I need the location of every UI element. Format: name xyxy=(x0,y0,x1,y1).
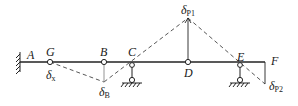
delta-subscript: P1 xyxy=(187,9,195,18)
hinges xyxy=(47,59,242,67)
label-b: B xyxy=(100,46,107,58)
beam-diagram xyxy=(0,0,298,106)
hinge-b xyxy=(101,59,106,64)
label-a: A xyxy=(27,49,34,61)
fixed-support-a xyxy=(16,52,20,74)
hinge-d xyxy=(185,59,190,64)
displacement-lines xyxy=(50,18,265,84)
label-c: C xyxy=(128,46,136,58)
label-e: E xyxy=(237,51,244,63)
delta-x-label: δx xyxy=(46,69,56,83)
hinge-c xyxy=(130,63,135,68)
delta-p2-label: δP2 xyxy=(269,80,283,94)
delta-p1-label: δP1 xyxy=(181,4,195,18)
delta-b-label: δB xyxy=(99,86,110,100)
delta-subscript: x xyxy=(52,74,56,83)
delta-subscript: P2 xyxy=(275,85,283,94)
label-f: F xyxy=(271,55,278,67)
label-d: D xyxy=(184,67,193,79)
delta-subscript: B xyxy=(105,91,110,100)
hinge-g xyxy=(47,59,52,64)
label-g: G xyxy=(46,46,55,58)
